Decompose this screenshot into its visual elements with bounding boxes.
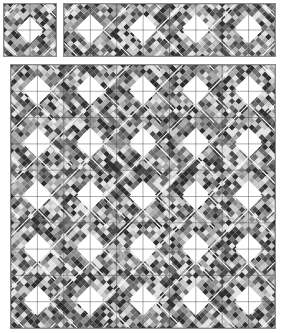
four-block-row-preview <box>63 3 276 57</box>
quilt-blocks-graphic <box>11 65 275 328</box>
quilt-blocks-graphic <box>64 4 275 56</box>
quilt-blocks-graphic <box>4 4 56 56</box>
single-block-preview <box>3 3 57 57</box>
full-quilt-layout <box>10 64 276 329</box>
